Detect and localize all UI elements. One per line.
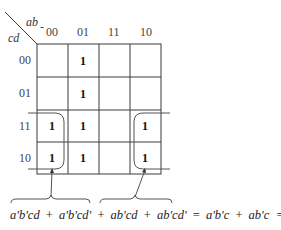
cell-value: 1 bbox=[80, 151, 86, 165]
cell-value: 1 bbox=[142, 119, 148, 133]
term-2: a'b'cd' bbox=[59, 208, 92, 222]
left-wrap-group-loop bbox=[28, 113, 64, 169]
row-header: 11 bbox=[19, 119, 31, 133]
left-brace bbox=[11, 195, 90, 203]
row-variable-label: cd bbox=[8, 31, 20, 45]
right-wrap-group-loop bbox=[134, 113, 170, 169]
right-brace bbox=[100, 195, 172, 203]
cell-value: 1 bbox=[49, 151, 55, 165]
col-header: 00 bbox=[46, 25, 58, 39]
col-variable-label: ab bbox=[26, 15, 38, 29]
row-header: 01 bbox=[19, 86, 31, 100]
cell-value: 1 bbox=[80, 54, 86, 68]
column-headers: 00 01 11 10 bbox=[46, 25, 152, 39]
col-header: 11 bbox=[108, 25, 120, 39]
col-header: 01 bbox=[77, 25, 89, 39]
equals-sign: = bbox=[193, 208, 200, 222]
row-header: 10 bbox=[19, 151, 31, 165]
plus-sign: + bbox=[97, 208, 104, 222]
kmap-diagram: ab cd - 00 01 11 10 00 01 11 10 1 1 1 1 … bbox=[0, 0, 281, 230]
plus-sign: + bbox=[144, 208, 151, 222]
term-1: a'b'cd bbox=[10, 208, 40, 222]
cell-value: 1 bbox=[80, 87, 86, 101]
row-header: 00 bbox=[19, 53, 31, 67]
tick-mark: - bbox=[40, 20, 44, 34]
plus-sign: + bbox=[235, 208, 242, 222]
cell-value: 1 bbox=[80, 119, 86, 133]
row-headers: 00 01 11 10 bbox=[19, 53, 31, 165]
term-5: a'b'c bbox=[206, 208, 230, 222]
plus-sign: + bbox=[46, 208, 53, 222]
cell-value: 1 bbox=[49, 119, 55, 133]
equation: a'b'cd + a'b'cd' + ab'cd + ab'cd' = a'b'… bbox=[10, 208, 281, 222]
term-6: ab'c bbox=[249, 208, 270, 222]
equals-sign: = bbox=[276, 208, 281, 222]
term-4: ab'cd' bbox=[157, 208, 187, 222]
term-3: ab'cd bbox=[111, 208, 139, 222]
cell-value: 1 bbox=[142, 151, 148, 165]
col-header: 10 bbox=[140, 25, 152, 39]
